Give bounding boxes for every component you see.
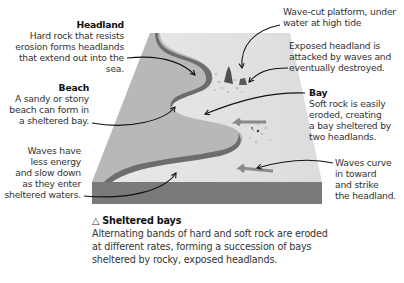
exposed-headland-line: Exposed headland is (289, 40, 404, 51)
waves-energy-line: Waves have (0, 145, 81, 156)
bay-desc-line: a bay sheltered by (309, 120, 404, 131)
bay-label: Bay Soft rock is easily eroded, creating… (309, 87, 404, 142)
beach-desc-line: A sandy or stony (0, 93, 89, 104)
headland-title: Headland (0, 19, 124, 30)
waves-energy-line: sheltered waters. (0, 189, 81, 200)
waves-curve-line: and strike (335, 179, 404, 190)
caption-line: at different rates, forming a succession… (92, 240, 392, 253)
waves-energy-line: less energy (0, 156, 81, 167)
bay-title: Bay (309, 87, 404, 98)
bay-desc-line: two headlands. (309, 131, 404, 142)
beach-desc-line: beach can form in (0, 104, 89, 115)
wave-cut-platform-line: water at high tide (283, 17, 404, 28)
waves-energy-line: as they enter (0, 178, 81, 189)
beach-desc-line: a sheltered bay. (0, 115, 89, 126)
wave-cut-platform-line: Wave-cut platform, under (283, 6, 404, 17)
waves-energy-line: and slow down (0, 167, 81, 178)
headland-label: Headland Hard rock that resists erosion … (0, 19, 124, 74)
caption-line: Alternating bands of hard and soft rock … (92, 227, 392, 240)
caption-title: Sheltered bays (102, 215, 181, 226)
waves-curve-line: Waves curve (335, 157, 404, 168)
exposed-headland-line: eventually destroyed. (289, 62, 404, 73)
bay-desc-line: Soft rock is easily (309, 98, 404, 109)
caption-line: sheltered by rocky, exposed headlands. (92, 253, 392, 266)
waves-curve-line: the headland. (335, 190, 404, 201)
bay-desc-line: eroded, creating (309, 109, 404, 120)
exposed-headland-label: Exposed headland is attacked by waves an… (289, 40, 404, 73)
triangle-outline-icon: △ (92, 215, 99, 226)
waves-curve-label: Waves curve in toward and strike the hea… (335, 157, 404, 201)
caption: △Sheltered bays Alternating bands of har… (92, 214, 392, 266)
wave-cut-platform-label: Wave-cut platform, under water at high t… (283, 6, 404, 28)
waves-energy-label: Waves have less energy and slow down as … (0, 145, 81, 200)
waves-curve-line: in toward (335, 168, 404, 179)
beach-label: Beach A sandy or stony beach can form in… (0, 82, 89, 126)
beach-title: Beach (0, 82, 89, 93)
exposed-headland-line: attacked by waves and (289, 51, 404, 62)
headland-desc-line: that extend out into the sea. (0, 52, 124, 74)
headland-desc-line: Hard rock that resists (0, 30, 124, 41)
headland-desc-line: erosion forms headlands (0, 41, 124, 52)
block-front-face (92, 182, 322, 204)
